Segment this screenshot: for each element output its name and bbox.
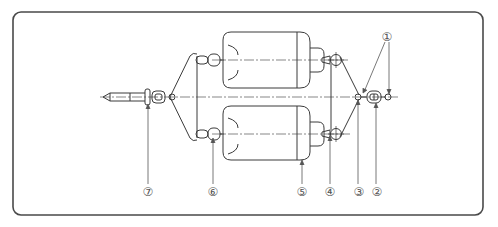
- label-6: ⑥: [208, 185, 219, 199]
- lower-cylinder: [223, 106, 324, 160]
- leader-lines: [146, 42, 391, 184]
- diagram-canvas: ① ② ③ ④ ⑤ ⑥ ⑦: [0, 0, 498, 227]
- label-4: ④: [325, 185, 336, 199]
- label-5: ⑤: [297, 185, 308, 199]
- drawing: [100, 32, 398, 184]
- label-2: ②: [372, 185, 383, 199]
- label-1: ①: [382, 30, 393, 44]
- label-3: ③: [354, 185, 365, 199]
- diagram-frame: [13, 12, 483, 215]
- label-7: ⑦: [143, 185, 154, 199]
- callout-labels: ① ② ③ ④ ⑤ ⑥ ⑦: [143, 30, 393, 199]
